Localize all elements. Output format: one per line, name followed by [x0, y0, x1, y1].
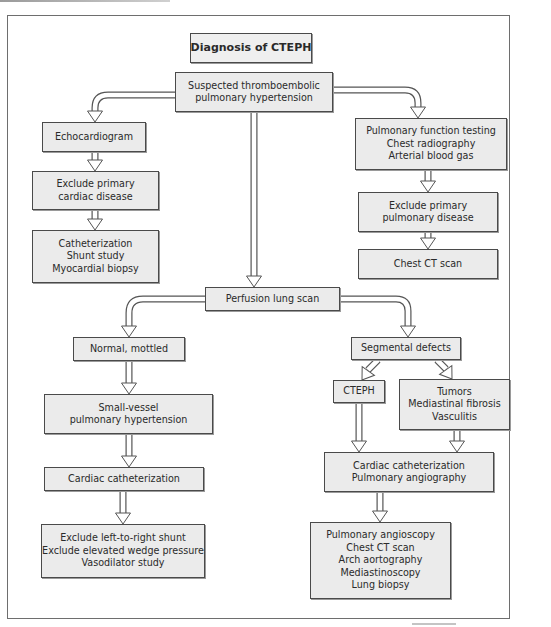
- node-text-line: Exclude elevated wedge pressure: [42, 545, 204, 557]
- node-text-line: Exclude left-to-right shunt: [60, 532, 186, 544]
- node-tumors: TumorsMediastinal fibrosisVasculitis: [399, 379, 510, 430]
- arrowhead-icon: [247, 276, 262, 287]
- node-text-line: Myocardial biopsy: [52, 263, 139, 275]
- node-echocardiogram: Echocardiogram: [42, 122, 146, 152]
- arrow-cteph-to-cardiac-cath-angio: [352, 403, 367, 452]
- arrowhead-icon: [352, 441, 367, 452]
- arrowhead-icon: [116, 513, 131, 524]
- node-perfusion-scan: Perfusion lung scan: [205, 287, 340, 311]
- node-text-line: Perfusion lung scan: [226, 293, 320, 305]
- node-text-line: Segmental defects: [361, 342, 451, 354]
- arrowhead-icon: [373, 511, 388, 522]
- node-text-line: Chest CT scan: [394, 258, 462, 270]
- node-text-line: Pulmonary angiography: [352, 472, 467, 484]
- arrowhead-icon: [88, 219, 103, 230]
- arrowhead-icon: [122, 326, 137, 337]
- node-exclude-shunt: Exclude left-to-right shuntExclude eleva…: [41, 524, 205, 578]
- node-exclude-pulmonary: Exclude primarypulmonary disease: [358, 192, 498, 232]
- arrowhead-icon: [401, 326, 416, 337]
- node-text-line: pulmonary disease: [382, 212, 473, 224]
- arrow-normal-mottled-to-small-vessel: [122, 361, 137, 394]
- arrowhead-icon: [421, 181, 436, 192]
- arrow-perfusion-scan-to-normal-mottled: [122, 299, 206, 337]
- arrowhead-icon: [450, 441, 465, 452]
- node-normal-mottled: Normal, mottled: [73, 337, 185, 361]
- arrow-tumors-to-cardiac-cath-angio: [450, 430, 465, 452]
- arrowhead-icon: [122, 456, 137, 467]
- node-text-line: pulmonary hypertension: [195, 92, 313, 104]
- node-text-line: pulmonary hypertension: [70, 414, 188, 426]
- node-text-line: Exclude primary: [389, 200, 467, 212]
- node-text-line: Vasodilator study: [81, 557, 164, 569]
- node-catheterization-shunt: CatheterizationShunt studyMyocardial bio…: [32, 230, 159, 283]
- arrow-exclude-cardiac-to-catheterization-shunt: [88, 210, 103, 230]
- node-text-line: cardiac disease: [58, 191, 132, 203]
- node-cardiac-cath-angio: Cardiac catheterizationPulmonary angiogr…: [324, 452, 494, 492]
- node-text-line: Mediastinal fibrosis: [408, 398, 500, 410]
- node-text-line: CTEPH: [343, 385, 375, 397]
- node-text-line: Mediastinoscopy: [340, 567, 420, 579]
- node-text-line: Exclude primary: [56, 178, 134, 190]
- node-text-line: Cardiac catheterization: [68, 473, 180, 485]
- arrow-cardiac-cath-left-to-exclude-shunt: [116, 491, 131, 524]
- page-footer-mark: [412, 623, 456, 625]
- diagram-title: Diagnosis of CTEPH: [190, 33, 312, 63]
- arrowhead-icon: [421, 238, 436, 249]
- node-text-line: Small-vessel: [99, 402, 159, 414]
- node-text-line: Pulmonary angioscopy: [326, 529, 435, 541]
- node-exclude-cardiac: Exclude primarycardiac disease: [32, 171, 159, 210]
- node-pulmonary-function: Pulmonary function testingChest radiogra…: [355, 118, 507, 170]
- node-text-line: Diagnosis of CTEPH: [191, 42, 312, 54]
- node-segmental-defects: Segmental defects: [351, 337, 461, 360]
- node-text-line: Catheterization: [59, 238, 133, 250]
- node-cardiac-cath-left: Cardiac catheterization: [44, 467, 204, 491]
- arrowhead-icon: [411, 107, 426, 118]
- arrowhead-icon: [88, 111, 103, 122]
- node-text-line: Vasculitis: [432, 411, 477, 423]
- node-suspected: Suspected thromboembolicpulmonary hypert…: [175, 72, 333, 112]
- node-text-line: Arterial blood gas: [389, 150, 474, 162]
- node-chest-ct: Chest CT scan: [358, 249, 498, 279]
- node-text-line: Normal, mottled: [90, 343, 168, 355]
- node-text-line: Shunt study: [67, 250, 125, 262]
- node-text-line: Pulmonary function testing: [366, 125, 496, 137]
- node-text-line: Echocardiogram: [55, 131, 133, 143]
- arrow-suspected-to-perfusion-scan: [247, 112, 262, 287]
- node-text-line: Arch aortography: [339, 554, 423, 566]
- arrowhead-icon: [122, 383, 137, 394]
- arrow-pulmonary-function-to-exclude-pulmonary: [421, 170, 436, 192]
- node-further-tests: Pulmonary angioscopyChest CT scanArch ao…: [310, 522, 451, 599]
- node-text-line: Lung biopsy: [352, 579, 410, 591]
- node-cteph: CTEPH: [333, 380, 385, 403]
- arrow-cardiac-cath-angio-to-further-tests: [373, 492, 388, 522]
- node-text-line: Chest radiography: [387, 138, 476, 150]
- arrowhead-icon: [88, 160, 103, 171]
- arrow-exclude-pulmonary-to-chest-ct: [421, 232, 436, 249]
- node-text-line: Suspected thromboembolic: [188, 80, 320, 92]
- node-text-line: Tumors: [437, 386, 472, 398]
- arrow-small-vessel-to-cardiac-cath-left: [122, 434, 137, 467]
- node-text-line: Cardiac catheterization: [353, 460, 465, 472]
- arrow-echocardiogram-to-exclude-cardiac: [88, 152, 103, 171]
- arrow-suspected-to-pulmonary-function: [333, 90, 426, 118]
- node-text-line: Chest CT scan: [346, 542, 414, 554]
- arrow-perfusion-scan-to-segmental-defects: [340, 299, 416, 337]
- arrow-suspected-to-echocardiogram: [88, 95, 176, 122]
- node-small-vessel: Small-vesselpulmonary hypertension: [44, 394, 213, 434]
